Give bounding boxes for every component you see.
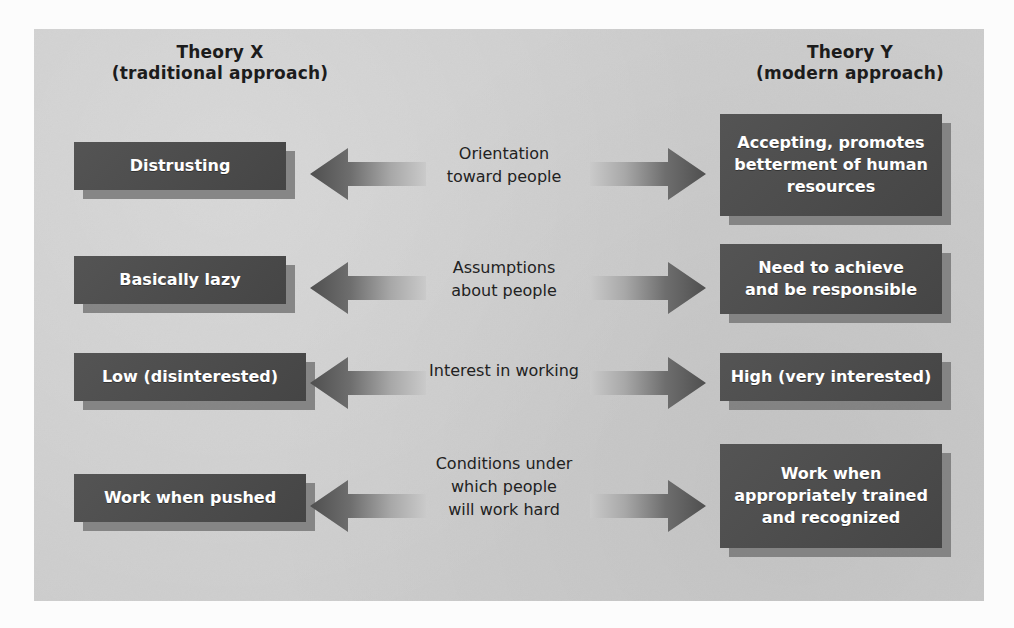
column-header-theory-y: Theory Y (modern approach) [700,42,1000,84]
arrow-left-icon [310,260,426,316]
arrow-right-icon [590,260,706,316]
row-center-label: Assumptions about people [416,256,592,302]
arrow-left-icon [310,478,426,534]
theory-y-box[interactable]: Accepting, promotes betterment of human … [720,114,942,216]
arrow-left-icon [310,146,426,202]
row-center-label: Interest in working [416,359,592,382]
diagram-row: Work when pushed Conditions under which … [0,440,1014,562]
arrow-right-icon [590,478,706,534]
arrow-right-icon [590,355,706,411]
arrow-right-icon [590,146,706,202]
theory-x-box[interactable]: Work when pushed [74,474,306,522]
theory-x-box[interactable]: Low (disinterested) [74,353,306,401]
diagram-row: Low (disinterested) Interest in working … [0,345,1014,415]
diagram-row: Distrusting Orientation toward people Ac… [0,118,1014,228]
column-header-theory-x: Theory X (traditional approach) [60,42,380,84]
diagram-row: Basically lazy Assumptions about people … [0,240,1014,328]
theory-y-box[interactable]: High (very interested) [720,353,942,401]
diagram-canvas: Theory X (traditional approach) Theory Y… [0,0,1014,628]
theory-x-box[interactable]: Basically lazy [74,256,286,304]
theory-y-box[interactable]: Need to achieve and be responsible [720,244,942,314]
theory-y-box[interactable]: Work when appropriately trained and reco… [720,444,942,548]
row-center-label: Orientation toward people [416,142,592,188]
theory-x-box[interactable]: Distrusting [74,142,286,190]
arrow-left-icon [310,355,426,411]
row-center-label: Conditions under which people will work … [416,452,592,521]
